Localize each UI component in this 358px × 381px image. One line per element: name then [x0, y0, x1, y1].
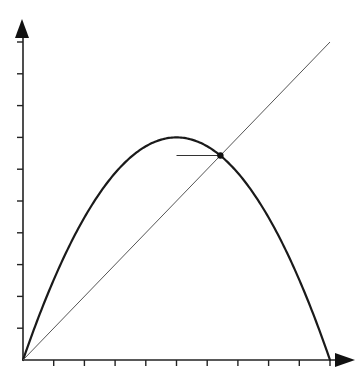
series-group [23, 42, 330, 360]
fixed-point-marker [217, 152, 223, 158]
y-axis-arrow-icon [15, 19, 29, 38]
x-axis-arrow-icon [335, 353, 355, 367]
diagonal-line [23, 42, 330, 360]
line-chart [0, 0, 358, 381]
parabola-curve [23, 137, 330, 360]
